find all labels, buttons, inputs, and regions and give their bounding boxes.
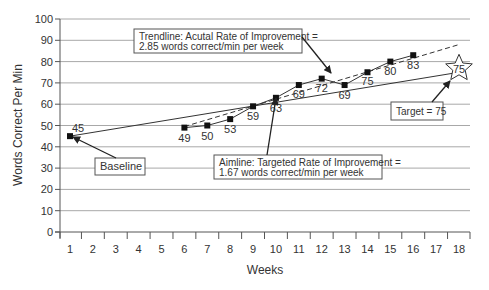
y-tick-label: 20 [41,183,53,195]
baseline-annotation-text: Baseline [100,160,142,172]
y-tick-label: 90 [41,34,53,46]
data-point-label: 83 [407,59,419,71]
target-value-label: 75 [453,63,465,75]
x-tick-label: 13 [338,243,350,255]
trendline-annotation-text: 2.85 words correct/min per week [139,41,285,52]
x-tick-label: 15 [384,243,396,255]
y-tick-label: 80 [41,56,53,68]
target-annotation-text: Target = 75 [396,106,447,117]
y-tick-label: 60 [41,98,53,110]
data-point-label: 63 [270,102,282,114]
y-tick-label: 10 [41,205,53,217]
x-tick-label: 10 [270,243,282,255]
x-tick-label: 9 [250,243,256,255]
x-tick-label: 12 [316,243,328,255]
y-tick-label: 70 [41,77,53,89]
data-point-marker [204,123,210,129]
progress-monitoring-chart: 0102030405060708090100 12345678910111213… [0,0,489,290]
x-tick-label: 8 [227,243,233,255]
y-axis-ticks: 0102030405060708090100 [35,13,60,238]
y-axis-label: Words Correct Per Min [11,64,25,186]
data-markers [67,52,416,139]
target-star: 75 [446,54,473,79]
y-tick-label: 0 [47,226,53,238]
series-lines [70,45,459,137]
data-point-label: 72 [316,82,328,94]
target-annotation-arrow [432,81,450,102]
x-tick-label: 14 [361,243,373,255]
x-tick-label: 6 [181,243,187,255]
data-point-marker [181,125,187,131]
data-point-label: 45 [72,122,84,134]
data-point-label: 59 [247,110,259,122]
y-tick-label: 50 [41,120,53,132]
y-tick-label: 100 [35,13,53,25]
trendline-annotation-arrow [302,37,331,73]
x-tick-label: 1 [67,243,73,255]
y-tick-label: 40 [41,141,53,153]
x-axis-label: Weeks [247,263,283,277]
data-point-label: 69 [293,88,305,100]
data-point-label: 69 [338,89,350,101]
data-point-marker [250,103,256,109]
x-tick-label: 7 [204,243,210,255]
baseline-annotation-arrow [73,137,116,158]
x-tick-label: 4 [136,243,142,255]
data-point-label: 50 [201,130,213,142]
x-tick-label: 17 [430,243,442,255]
x-axis-ticks: 123456789101112131415161718 [60,232,470,255]
x-tick-label: 11 [293,243,304,255]
data-point-label: 49 [178,132,190,144]
x-tick-label: 2 [90,243,96,255]
x-tick-label: 3 [113,243,119,255]
data-point-marker [342,82,348,88]
y-tick-label: 30 [41,162,53,174]
data-point-marker [227,116,233,122]
data-point-label: 75 [361,75,373,87]
x-tick-label: 16 [407,243,419,255]
aimline-annotation-text: 1.67 words correct/min per week [219,167,365,178]
data-point-label: 53 [224,123,236,135]
x-tick-label: 18 [453,243,465,255]
data-point-label: 80 [384,65,396,77]
x-tick-label: 5 [158,243,164,255]
data-point-marker [410,52,416,58]
